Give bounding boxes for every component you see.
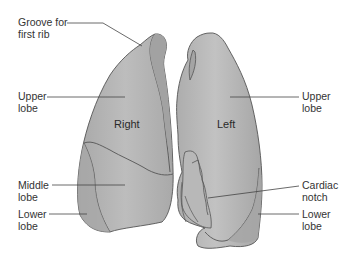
leader-groove — [67, 23, 142, 46]
right-lung — [78, 34, 174, 232]
left-lung-name: Left — [217, 118, 235, 130]
label-upper-lobe-right: Upper lobe — [18, 90, 47, 114]
left-lung — [177, 33, 262, 248]
lung-diagram: Right Left Groove for first rib Upper lo… — [0, 0, 359, 262]
label-lower-lobe-right: Lower lobe — [18, 208, 47, 232]
label-lower-lobe-left: Lower lobe — [302, 208, 331, 232]
label-upper-lobe-left: Upper lobe — [302, 90, 331, 114]
label-groove-for-first-rib: Groove for first rib — [18, 16, 68, 40]
label-cardiac-notch: Cardiac notch — [302, 179, 338, 203]
right-lung-name: Right — [114, 118, 140, 130]
label-middle-lobe: Middle lobe — [18, 179, 49, 203]
